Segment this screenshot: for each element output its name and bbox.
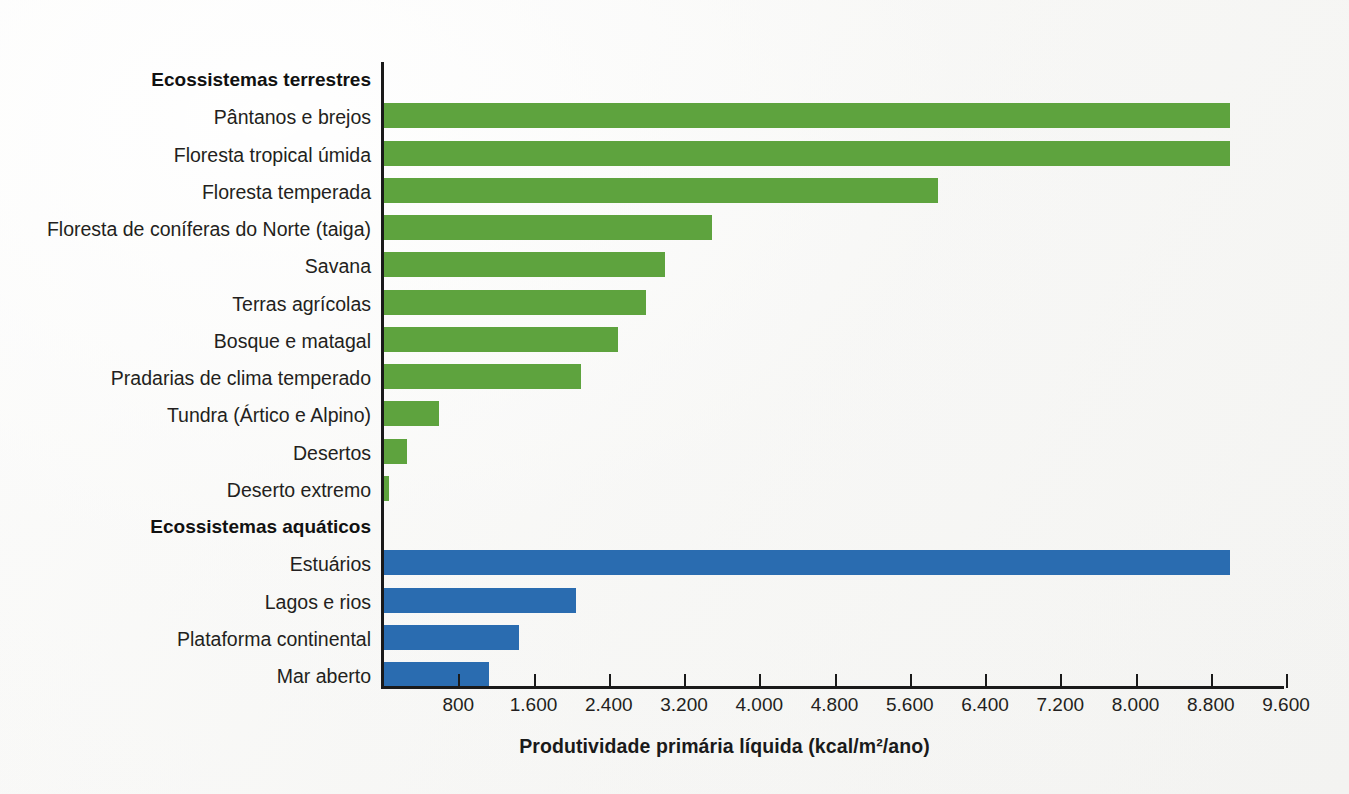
category-label: Savana bbox=[305, 257, 371, 277]
x-axis-tick-label: 2.400 bbox=[585, 694, 633, 716]
category-label: Estuários bbox=[290, 555, 371, 575]
bar bbox=[383, 103, 1230, 128]
x-axis-tick bbox=[1136, 674, 1138, 688]
x-axis-tick bbox=[1060, 674, 1062, 688]
category-label: Terras agrícolas bbox=[232, 295, 371, 315]
category-label: Plataforma continental bbox=[177, 630, 371, 650]
category-label: Lagos e rios bbox=[265, 593, 371, 613]
x-axis-tick bbox=[910, 674, 912, 688]
x-axis-tick bbox=[835, 674, 837, 688]
bar bbox=[383, 401, 439, 426]
x-axis-tick-label: 8.800 bbox=[1187, 694, 1235, 716]
category-label: Pântanos e brejos bbox=[214, 108, 371, 128]
x-axis-tick-label: 7.200 bbox=[1036, 694, 1084, 716]
bar bbox=[383, 327, 618, 352]
bar bbox=[383, 662, 489, 687]
x-axis-tick-label: 5.600 bbox=[886, 694, 934, 716]
category-label: Floresta temperada bbox=[202, 183, 371, 203]
category-label: Tundra (Ártico e Alpino) bbox=[167, 406, 371, 426]
x-axis-line bbox=[381, 686, 1284, 689]
x-axis-tick bbox=[985, 674, 987, 688]
x-axis-title: Produtividade primária líquida (kcal/m²/… bbox=[0, 735, 1349, 758]
x-axis-tick-label: 8.000 bbox=[1112, 694, 1160, 716]
x-axis-tick-label: 3.200 bbox=[660, 694, 708, 716]
x-axis-tick-label: 9.600 bbox=[1262, 694, 1310, 716]
bar bbox=[383, 290, 646, 315]
x-axis-tick-label: 4.000 bbox=[735, 694, 783, 716]
category-label: Floresta de coníferas do Norte (taiga) bbox=[47, 220, 371, 240]
x-axis-tick bbox=[534, 674, 536, 688]
x-axis-tick bbox=[609, 674, 611, 688]
x-axis-tick-label: 4.800 bbox=[811, 694, 859, 716]
bar bbox=[383, 252, 665, 277]
x-axis-tick-label: 1.600 bbox=[510, 694, 558, 716]
bar bbox=[383, 215, 712, 240]
category-label: Bosque e matagal bbox=[214, 332, 371, 352]
y-axis-line bbox=[381, 62, 384, 688]
category-label: Deserto extremo bbox=[227, 481, 371, 501]
category-label: Pradarias de clima temperado bbox=[111, 369, 371, 389]
x-axis-title-text: Produtividade primária líquida (kcal/m²/… bbox=[519, 735, 930, 757]
x-axis-tick-label: 6.400 bbox=[961, 694, 1009, 716]
bar bbox=[383, 550, 1230, 575]
x-axis-tick bbox=[684, 674, 686, 688]
group-header-label: Ecossistemas terrestres bbox=[151, 70, 371, 89]
bar bbox=[383, 439, 407, 464]
x-axis-tick bbox=[458, 674, 460, 688]
bar bbox=[383, 141, 1230, 166]
bar bbox=[383, 178, 938, 203]
bar bbox=[383, 588, 576, 613]
group-header-label: Ecossistemas aquáticos bbox=[150, 517, 371, 536]
x-axis-tick bbox=[1286, 674, 1288, 688]
x-axis-tick-label: 800 bbox=[442, 694, 474, 716]
bar bbox=[383, 625, 519, 650]
x-axis-tick bbox=[1211, 674, 1213, 688]
chart-figure: Ecossistemas terrestresPântanos e brejos… bbox=[0, 0, 1349, 794]
category-label: Floresta tropical úmida bbox=[174, 146, 371, 166]
category-label: Mar aberto bbox=[277, 667, 371, 687]
bar bbox=[383, 364, 581, 389]
plot-area: Ecossistemas terrestresPântanos e brejos… bbox=[0, 0, 1349, 794]
category-label: Desertos bbox=[293, 444, 371, 464]
x-axis-tick bbox=[759, 674, 761, 688]
